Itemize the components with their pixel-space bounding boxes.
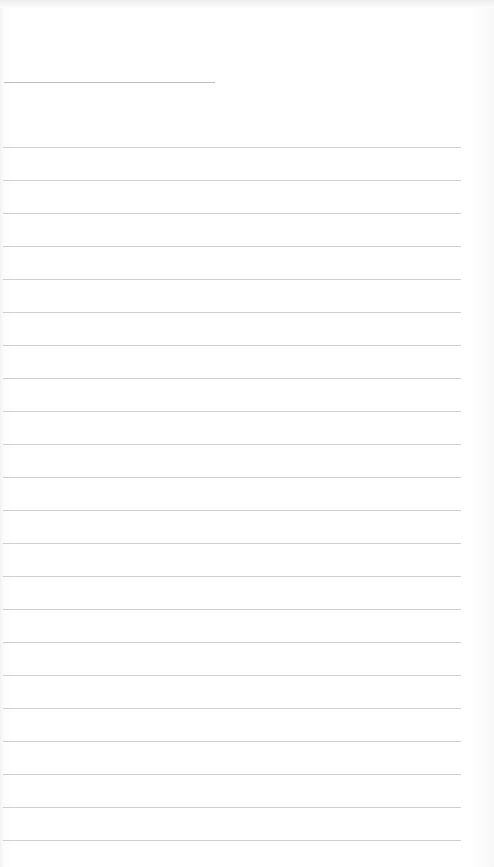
ruled-line: [3, 477, 461, 478]
ruled-line: [3, 642, 461, 643]
ruled-line: [3, 213, 461, 214]
ruled-line: [3, 246, 461, 247]
ruled-line: [3, 345, 461, 346]
ruled-line: [3, 411, 461, 412]
ruled-line: [3, 279, 461, 280]
ruled-line: [3, 147, 461, 148]
ruled-line: [3, 807, 461, 808]
ruled-line: [3, 774, 461, 775]
ruled-line: [3, 741, 461, 742]
title-line: [4, 82, 215, 83]
ruled-line: [3, 675, 461, 676]
ruled-line: [3, 543, 461, 544]
ruled-line: [3, 180, 461, 181]
ruled-line: [3, 708, 461, 709]
ruled-line: [3, 576, 461, 577]
ruled-line: [3, 312, 461, 313]
ruled-line: [3, 609, 461, 610]
ruled-line: [3, 444, 461, 445]
lined-paper-sheet: [0, 0, 494, 867]
ruled-line: [3, 510, 461, 511]
ruled-line: [3, 378, 461, 379]
ruled-line: [3, 840, 461, 841]
paper-top-edge: [0, 0, 494, 8]
